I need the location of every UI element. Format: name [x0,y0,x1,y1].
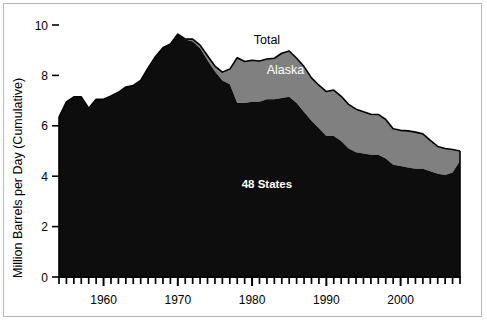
x-axis-ticks [59,277,460,286]
area-chart: Million Barrels per Day (Cumulative) 024… [0,0,487,322]
y-tick-label: 2 [41,220,48,234]
y-axis-ticks: 0246810 [35,19,59,285]
series-annotation-alaska: Alaska [267,63,305,77]
chart-figure: Million Barrels per Day (Cumulative) 024… [0,0,487,322]
series-annotation-total: Total [254,33,280,47]
x-tick-label: 1990 [313,293,340,307]
y-tick-label: 10 [35,19,49,33]
stacked-areas [59,34,460,277]
y-tick-label: 6 [41,119,48,133]
y-tick-label: 8 [41,69,48,83]
y-axis-title: Million Barrels per Day (Cumulative) [11,78,25,278]
x-axis-tick-labels: 19601970198019902000 [90,293,414,307]
y-tick-label: 4 [41,170,48,184]
y-tick-label: 0 [41,271,48,285]
y-axis-title-text: Million Barrels per Day (Cumulative) [11,78,25,278]
series-annotation-48-states: 48 States [242,178,293,190]
x-tick-label: 1960 [90,293,117,307]
x-tick-label: 1980 [239,293,266,307]
x-tick-label: 1970 [164,293,191,307]
x-tick-label: 2000 [387,293,414,307]
